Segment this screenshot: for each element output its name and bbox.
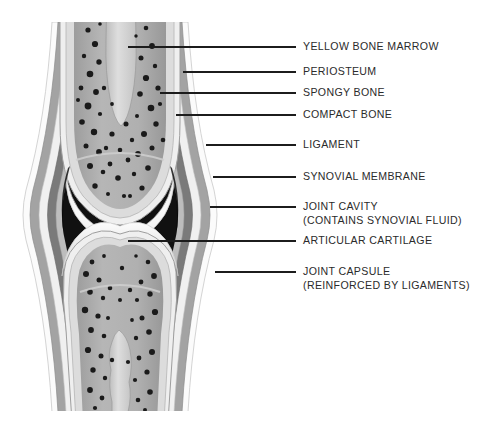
label-text-ligament: LIGAMENT <box>303 138 360 150</box>
label-text-synovial-membrane: SYNOVIAL MEMBRANE <box>303 170 426 182</box>
label-text-joint-cavity: JOINT CAVITY <box>303 200 378 212</box>
lower-bone <box>62 222 178 422</box>
label-text-articular-cartilage: ARTICULAR CARTILAGE <box>303 234 432 246</box>
label-text-periosteum: PERIOSTEUM <box>303 65 377 77</box>
label-text-yellow-bone-marrow: YELLOW BONE MARROW <box>303 40 439 52</box>
label-text-joint-capsule: JOINT CAPSULE <box>303 265 390 277</box>
label-text-compact-bone: COMPACT BONE <box>303 108 392 120</box>
label-subtext-joint-cavity: (CONTAINS SYNOVIAL FLUID) <box>303 214 462 226</box>
label-subtext-joint-capsule: (REINFORCED BY LIGAMENTS) <box>303 279 470 291</box>
knee-joint-diagram: YELLOW BONE MARROW PERIOSTEUM SPONGY BON… <box>0 0 500 434</box>
lower-yellow-marrow <box>109 330 131 422</box>
label-text-spongy-bone: SPONGY BONE <box>303 86 385 98</box>
